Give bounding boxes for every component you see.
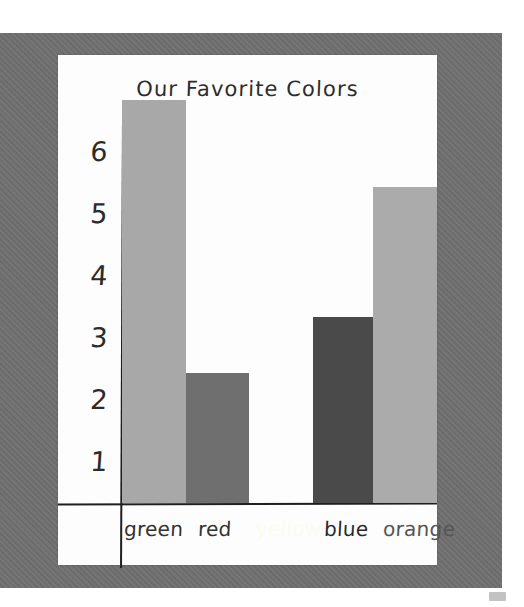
chart-paper: Our Favorite Colors 6 5 4 3 2 1 green re… bbox=[58, 55, 437, 565]
x-axis-label-blue: blue bbox=[323, 517, 369, 541]
bar-green bbox=[122, 100, 186, 503]
x-axis-label-orange: orange bbox=[382, 517, 455, 541]
x-axis-label-green: green bbox=[123, 517, 184, 541]
y-axis-tick-1: 1 bbox=[78, 448, 120, 475]
screenshot-canvas: Our Favorite Colors 6 5 4 3 2 1 green re… bbox=[0, 0, 524, 607]
bar-red bbox=[186, 373, 249, 503]
y-axis-tick-6: 6 bbox=[78, 138, 120, 165]
y-axis-tick-4: 4 bbox=[78, 262, 120, 289]
x-axis-label-yellow: yellow bbox=[255, 517, 322, 541]
bar-blue bbox=[313, 317, 373, 503]
y-axis-tick-3: 3 bbox=[78, 324, 120, 351]
y-axis-tick-5: 5 bbox=[78, 200, 120, 227]
x-axis-label-red: red bbox=[197, 517, 232, 541]
y-axis-tick-2: 2 bbox=[78, 386, 120, 413]
bar-orange bbox=[373, 187, 437, 503]
bar-chart-plot-area: 6 5 4 3 2 1 green red yellow blue orange bbox=[58, 55, 437, 565]
photo-corner-smudge bbox=[489, 592, 506, 601]
